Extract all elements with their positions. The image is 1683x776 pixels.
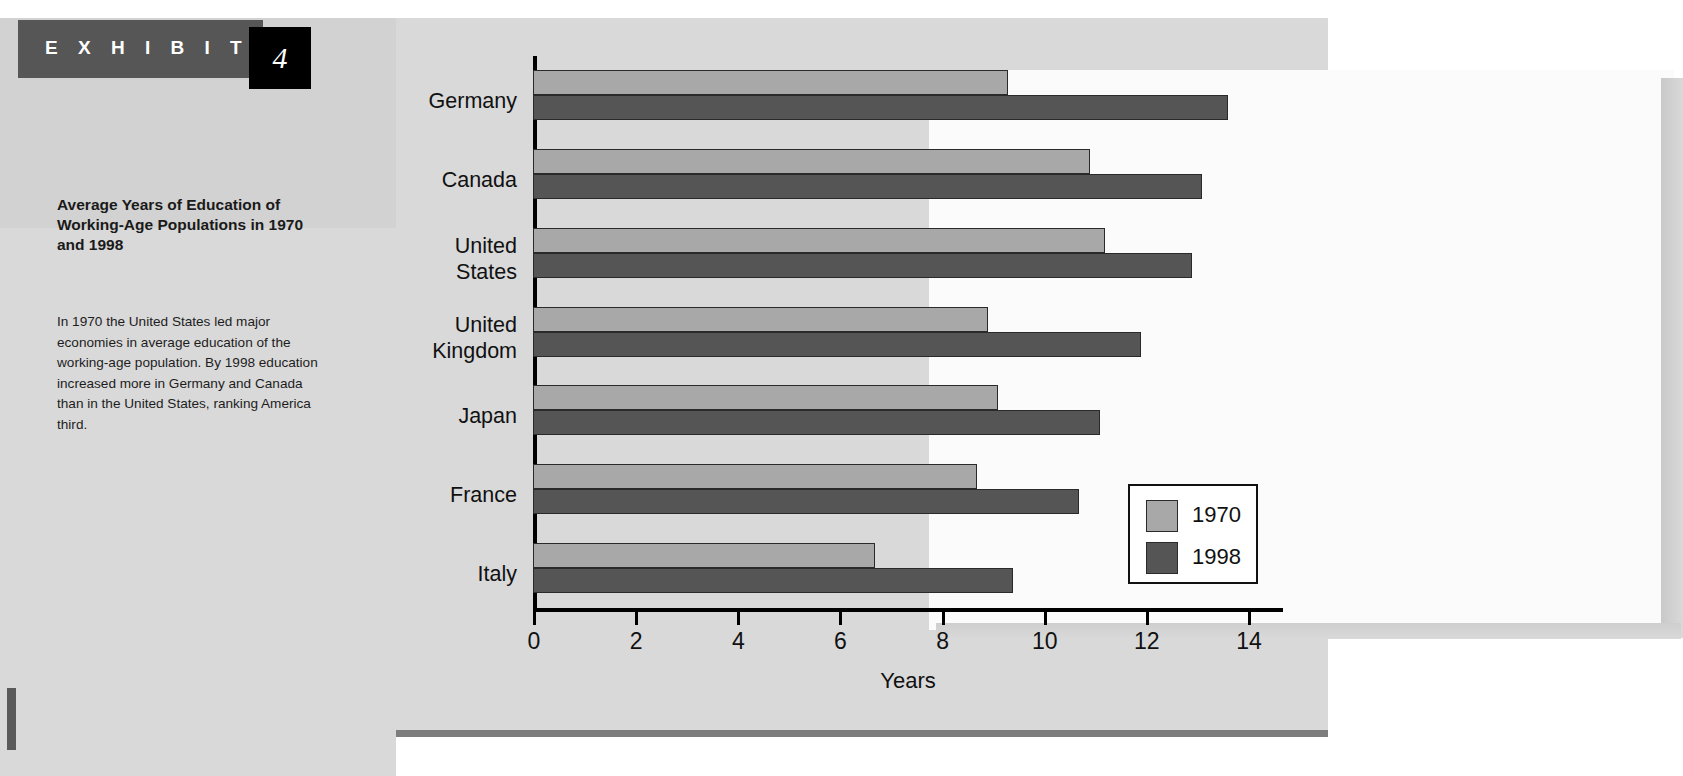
category-labels: GermanyCanadaUnitedStatesUnitedKingdomJa… [330, 56, 517, 612]
bar-united-states-1970 [533, 228, 1105, 253]
bar-germany-1970 [533, 70, 1008, 95]
category-label-france: France [337, 482, 517, 508]
category-label-germany: Germany [337, 88, 517, 114]
x-axis-title: Years [533, 668, 1283, 694]
x-tick-6 [839, 612, 842, 625]
bar-japan-1970 [533, 385, 998, 410]
legend-swatch-1998 [1146, 542, 1178, 574]
bar-italy-1970 [533, 543, 875, 568]
exhibit-number: 4 [249, 27, 311, 89]
x-tick-label-8: 8 [936, 628, 949, 655]
x-tick-2 [635, 612, 638, 625]
category-label-united-kingdom: UnitedKingdom [337, 312, 517, 364]
x-tick-label-6: 6 [834, 628, 847, 655]
bar-france-1998 [533, 489, 1079, 514]
chart-legend: 19701998 [1128, 484, 1258, 584]
legend-label-1998: 1998 [1192, 544, 1241, 570]
bottom-rule [396, 730, 1328, 737]
bar-france-1970 [533, 464, 977, 489]
x-tick-label-4: 4 [732, 628, 745, 655]
legend-label-1970: 1970 [1192, 502, 1241, 528]
x-tick-8 [942, 612, 945, 625]
bar-canada-1970 [533, 149, 1090, 174]
category-label-canada: Canada [337, 167, 517, 193]
x-tick-label-10: 10 [1032, 628, 1058, 655]
x-tick-12 [1146, 612, 1149, 625]
x-tick-label-2: 2 [630, 628, 643, 655]
x-tick-label-14: 14 [1236, 628, 1262, 655]
bar-united-kingdom-1970 [533, 307, 988, 332]
exhibit-label: E X H I B I T [45, 37, 249, 59]
page-bottom-margin [396, 737, 1328, 758]
category-label-italy: Italy [337, 561, 517, 587]
x-tick-4 [737, 612, 740, 625]
page-top-margin [0, 0, 1328, 18]
bar-italy-1998 [533, 568, 1013, 593]
bar-germany-1998 [533, 95, 1228, 120]
legend-swatch-1970 [1146, 500, 1178, 532]
exhibit-title: Average Years of Education of Working-Ag… [57, 195, 319, 255]
bar-canada-1998 [533, 174, 1202, 199]
x-tick-0 [533, 612, 536, 625]
sidebar-marker [7, 688, 16, 750]
bar-united-states-1998 [533, 253, 1192, 278]
bar-united-kingdom-1998 [533, 332, 1141, 357]
category-label-united-states: UnitedStates [337, 233, 517, 285]
x-tick-14 [1248, 612, 1251, 625]
x-tick-10 [1044, 612, 1047, 625]
exhibit-description: In 1970 the United States led major econ… [57, 312, 325, 435]
x-tick-label-12: 12 [1134, 628, 1160, 655]
x-tick-label-0: 0 [528, 628, 541, 655]
chart-shadow-right [1661, 78, 1683, 638]
bar-japan-1998 [533, 410, 1100, 435]
category-label-japan: Japan [337, 403, 517, 429]
